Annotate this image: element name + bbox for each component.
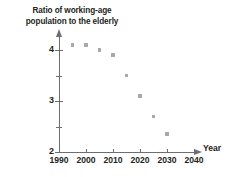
y-axis-tick-label-text: 3 <box>40 96 54 105</box>
y-axis-line <box>59 36 60 153</box>
chart-figure: Ratio of working-age population to the e… <box>0 0 227 177</box>
data-point <box>98 48 101 51</box>
data-point <box>111 53 114 56</box>
plot-area: 234 199020002010202020302040 Year <box>0 0 227 177</box>
data-point <box>125 74 128 77</box>
x-axis-line <box>59 152 195 153</box>
x-axis-tick <box>59 149 60 153</box>
x-axis-tick <box>194 149 195 153</box>
y-axis-minor-tick <box>56 127 62 128</box>
x-axis-tick <box>167 149 168 153</box>
x-axis-title: Year <box>203 143 221 153</box>
y-axis-tick-label: 4 <box>26 45 54 54</box>
data-point <box>84 43 87 46</box>
data-point <box>71 43 74 46</box>
y-axis-arrow-icon <box>56 29 62 37</box>
y-axis-tick-label: 3 <box>26 96 54 105</box>
y-axis-tick <box>55 101 63 102</box>
y-axis-tick <box>55 50 63 51</box>
y-axis-minor-tick <box>56 76 62 77</box>
data-point <box>138 94 141 97</box>
x-axis-tick-label: 2040 <box>177 155 211 165</box>
data-point <box>165 132 168 135</box>
x-axis-tick <box>113 149 114 153</box>
x-axis-tick <box>86 149 87 153</box>
x-axis-tick <box>140 149 141 153</box>
y-axis-tick-label-text: 4 <box>40 45 54 54</box>
data-point <box>152 115 155 118</box>
